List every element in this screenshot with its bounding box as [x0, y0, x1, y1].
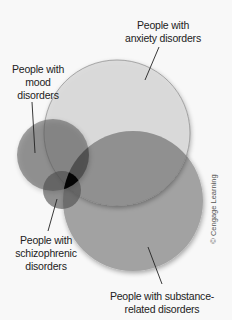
anxiety-label: People with anxiety disorders: [118, 19, 208, 45]
mood-label-line3: disorders: [4, 89, 72, 102]
mood-label-line2: mood: [4, 76, 72, 89]
schizophrenic-label-line3: disorders: [8, 260, 84, 273]
mood-label: People with mood disorders: [4, 63, 72, 102]
schizophrenic-label: People with schizophrenic disorders: [8, 234, 84, 273]
schizophrenic-label-line2: schizophrenic: [8, 247, 84, 260]
anxiety-label-line1: People with: [118, 19, 208, 32]
schizophrenic-label-line1: People with: [8, 234, 84, 247]
substance-label-line1: People with substance-: [104, 290, 220, 303]
mood-label-line1: People with: [4, 63, 72, 76]
substance-label: People with substance- related disorders: [104, 290, 220, 316]
copyright-notice: © Cengage Learning: [209, 174, 218, 243]
substance-label-line2: related disorders: [104, 303, 220, 316]
anxiety-label-line2: anxiety disorders: [118, 32, 208, 45]
